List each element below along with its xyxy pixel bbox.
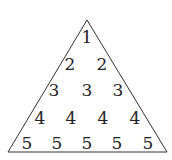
cell-r5-c3: 5 <box>82 133 93 153</box>
cell-r4-c4: 4 <box>130 108 141 128</box>
cell-r2-c1: 2 <box>65 54 76 74</box>
cell-r4-c1: 4 <box>35 108 46 128</box>
cell-r3-c3: 3 <box>113 80 124 100</box>
number-triangle-diagram: 1 2 2 3 3 3 4 4 4 4 5 5 5 5 5 <box>0 0 172 160</box>
cell-r5-c1: 5 <box>22 133 33 153</box>
cell-r5-c2: 5 <box>52 133 63 153</box>
cell-r1-c1: 1 <box>82 27 93 47</box>
cell-r2-c2: 2 <box>97 54 108 74</box>
cell-r3-c1: 3 <box>49 80 60 100</box>
cell-r3-c2: 3 <box>82 80 93 100</box>
cell-r4-c3: 4 <box>98 108 109 128</box>
cell-r4-c2: 4 <box>66 108 77 128</box>
cell-r5-c5: 5 <box>143 133 154 153</box>
cell-r5-c4: 5 <box>112 133 123 153</box>
